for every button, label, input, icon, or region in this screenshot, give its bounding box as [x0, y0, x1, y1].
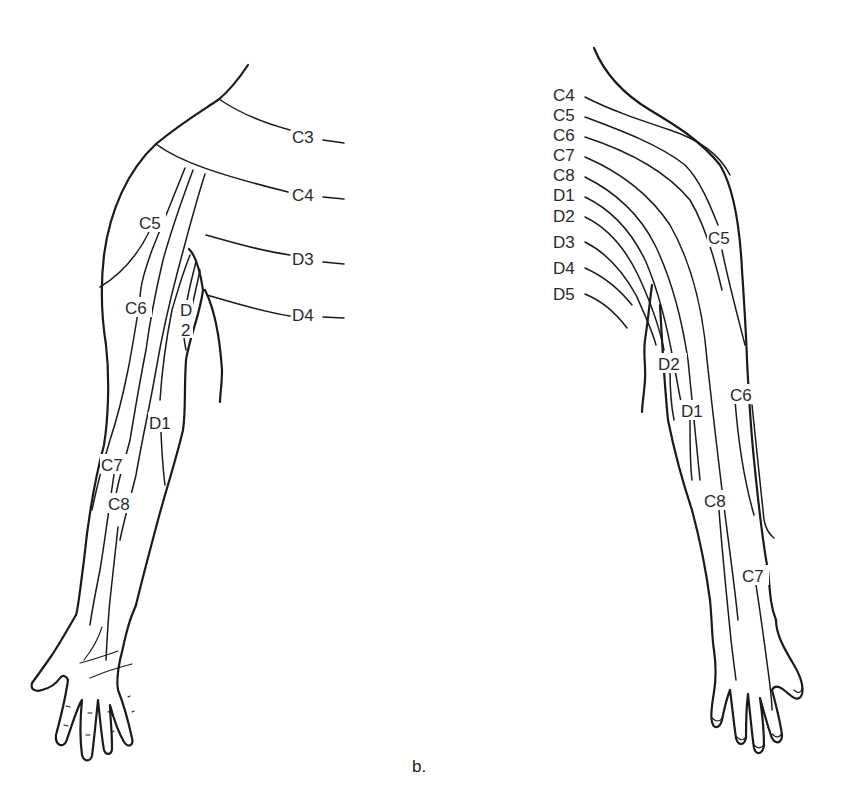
posterior-label-d2: D2 [553, 207, 575, 226]
anterior-label-c5: C5 [139, 214, 161, 233]
posterior-c7-lower [756, 585, 772, 710]
posterior-c7-line [585, 157, 738, 620]
posterior-c4-line [585, 97, 730, 175]
anterior-hand-outline [32, 605, 136, 760]
figure-caption: b. [412, 757, 426, 776]
anterior-label-d4: D4 [292, 306, 314, 325]
anterior-label-d3: D3 [292, 250, 314, 269]
posterior-label-d5: D5 [553, 285, 575, 304]
anterior-c8-lower [106, 527, 118, 660]
posterior-label-c7-arm: C7 [742, 567, 764, 586]
anterior-arm: C3 C4 D3 D4 C5 C6 D 2 D1 C7 C8 [32, 65, 344, 760]
posterior-d5-line [585, 294, 627, 328]
anterior-label-c6: C6 [125, 299, 147, 318]
anterior-d3-line [206, 235, 290, 255]
anterior-hand-crease-3 [84, 627, 102, 660]
posterior-c8-line [585, 177, 700, 480]
anterior-d4-dash [323, 317, 344, 318]
posterior-label-d1-arm: D1 [681, 402, 703, 421]
anterior-label-c3: C3 [292, 128, 314, 147]
anterior-c4-line [156, 144, 288, 192]
posterior-label-d3: D3 [553, 233, 575, 252]
anterior-label-d1: D1 [149, 414, 171, 433]
posterior-label-c5: C5 [553, 106, 575, 125]
anterior-hand-crease-2 [90, 664, 132, 678]
posterior-label-c4: C4 [553, 86, 575, 105]
posterior-outer-arm-outline [594, 48, 776, 620]
anterior-chest-outline [205, 290, 222, 402]
posterior-c6-line [585, 137, 722, 290]
anterior-neck-outline [156, 65, 248, 144]
dermatome-figure: C3 C4 D3 D4 C5 C6 D 2 D1 C7 C8 [0, 0, 851, 802]
posterior-d2-line [585, 217, 664, 350]
anterior-c3-line [219, 99, 290, 130]
posterior-arm: C4 C5 C6 C7 C8 D1 D2 D3 D4 D5 C5 D2 D1 C… [553, 48, 803, 753]
anterior-label-c8: C8 [108, 495, 130, 514]
anterior-label-d2-bottom: 2 [181, 321, 190, 340]
posterior-hand-outline [711, 620, 802, 753]
posterior-label-c5-arm: C5 [708, 229, 730, 248]
anterior-label-c7: C7 [101, 456, 123, 475]
anterior-c4-dash [323, 197, 344, 199]
posterior-d2-lower [670, 370, 674, 420]
anterior-d1-lower [161, 432, 165, 485]
posterior-d4-line [585, 268, 632, 305]
posterior-label-c8: C8 [553, 166, 575, 185]
anterior-label-d2-top: D [180, 301, 192, 320]
posterior-label-d2-arm: D2 [658, 355, 680, 374]
posterior-fingernails [712, 688, 802, 748]
posterior-label-c6-arm: C6 [730, 386, 752, 405]
anterior-d3-dash [323, 262, 344, 264]
posterior-label-d1: D1 [553, 186, 575, 205]
posterior-label-c6: C6 [553, 126, 575, 145]
anterior-label-c4: C4 [292, 186, 314, 205]
posterior-label-c8-arm: C8 [704, 492, 726, 511]
posterior-label-d4: D4 [553, 259, 575, 278]
posterior-label-c7: C7 [553, 146, 575, 165]
anterior-c3-dash [323, 140, 344, 143]
anterior-d4-line [207, 295, 290, 316]
posterior-d1-lower [690, 420, 692, 480]
